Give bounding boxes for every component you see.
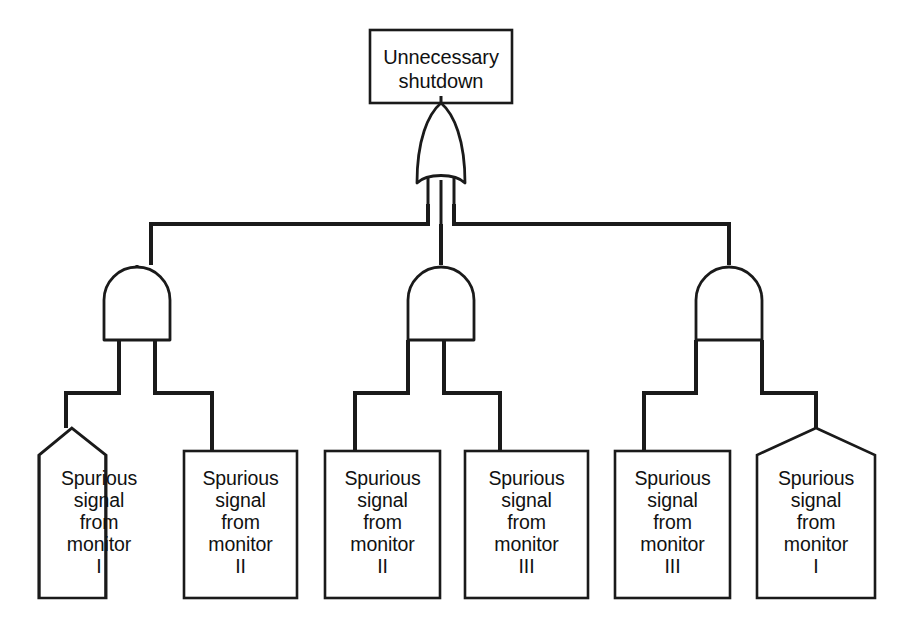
and-center-leg-to-event-4 — [444, 340, 500, 451]
or-gate-icon[interactable] — [417, 103, 465, 183]
and-center-leg-to-event-3 — [355, 340, 408, 451]
event-2-label: Spurious signal from monitor II — [184, 467, 297, 577]
and-gate-left-icon[interactable] — [104, 267, 170, 340]
event-1-label: Spurious signal from monitor I — [40, 467, 158, 577]
and-right-leg-to-event-6 — [762, 340, 816, 428]
event-3-label: Spurious signal from monitor II — [325, 467, 440, 577]
and-gate-center-icon[interactable] — [408, 267, 474, 340]
event-6-label: Spurious signal from monitor I — [757, 467, 875, 577]
and-left-leg-to-event-1 — [66, 340, 119, 428]
fault-tree-diagram: Unnecessary shutdown Spurious signal fro… — [0, 0, 906, 626]
and-gate-right-icon[interactable] — [696, 267, 762, 340]
and-left-leg-to-event-2 — [155, 340, 212, 451]
top-event-label: Unnecessary shutdown — [370, 45, 512, 93]
bus-line-to-and-left — [151, 204, 428, 265]
event-4-label: Spurious signal from monitor III — [465, 467, 588, 577]
event-5-label: Spurious signal from monitor III — [615, 467, 730, 577]
and-right-leg-to-event-5 — [644, 340, 696, 451]
bus-line-to-and-right — [454, 204, 729, 265]
